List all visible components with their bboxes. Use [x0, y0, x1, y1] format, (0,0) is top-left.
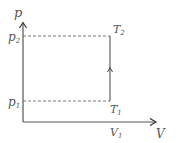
t1-label: T1 — [110, 103, 122, 117]
t2-label: T2 — [113, 23, 125, 37]
p2-label: p2 — [8, 30, 21, 45]
v-axis-label: V — [156, 127, 166, 141]
p1-label: p1 — [8, 95, 20, 110]
v1-label: V1 — [110, 126, 122, 140]
pv-diagram: p V p2 p1 V1 T2 T1 — [0, 0, 180, 143]
p-axis-label: p — [14, 5, 23, 20]
